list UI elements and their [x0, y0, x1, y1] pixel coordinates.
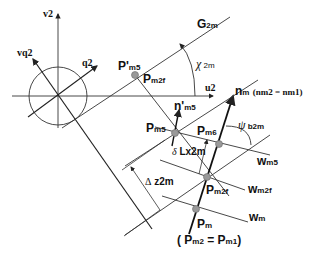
- label-pm6: Pm6: [197, 125, 217, 137]
- point-pm6: [216, 141, 223, 148]
- delta-z2m-arrow: [131, 167, 160, 210]
- label-pm: Pm: [197, 218, 212, 230]
- label-q2: q2: [82, 58, 93, 68]
- point-p-prime-m5: [132, 72, 139, 79]
- gear-geometry-diagram: v2 vq2 q2 u2 G2m χ 2m P'm5 Pm2f n'm5 nm …: [0, 0, 318, 253]
- point-pm: [193, 206, 200, 213]
- label-p-prime-m5: P'm5: [118, 60, 140, 72]
- label-n-prime-m5: n'm5: [174, 100, 196, 112]
- delta-z-ext-top: [122, 140, 165, 170]
- label-delta-lx2m: δ Lx2m: [172, 147, 206, 157]
- label-pm-equality: ( Pm2 = Pm1): [177, 234, 241, 246]
- chi-angle-arc: [180, 44, 195, 96]
- label-pm2f-upper: Pm2f: [143, 73, 165, 85]
- point-pm5: [172, 130, 179, 137]
- label-pm2f: Pm2f: [206, 184, 228, 196]
- vq2-axis: [33, 59, 152, 229]
- label-chi-2m: χ 2m: [196, 55, 215, 71]
- label-wm: wm: [249, 211, 265, 223]
- label-pm5: Pm5: [146, 122, 166, 134]
- label-v2: v2: [43, 9, 53, 19]
- label-psi-b2m: ψ b2m: [238, 116, 264, 132]
- label-delta-z2m: Δ z2m: [145, 177, 174, 187]
- label-u2: u2: [205, 83, 216, 93]
- label-vq2: vq2: [17, 48, 33, 58]
- point-pm2f: [204, 174, 211, 181]
- label-wm5: wm5: [257, 155, 278, 167]
- n-prime-m5-vector: [172, 110, 179, 146]
- label-nm: nm (nm2 = nm1): [235, 85, 302, 97]
- label-g2m: G2m: [197, 18, 218, 30]
- label-wm2f: wm2f: [248, 183, 272, 195]
